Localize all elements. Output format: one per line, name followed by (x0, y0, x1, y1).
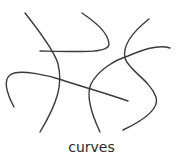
curve-d (123, 19, 157, 130)
curve-b (40, 13, 109, 52)
curve-e (89, 47, 170, 132)
figure-caption: curves (0, 138, 183, 156)
curve-c (7, 72, 128, 107)
